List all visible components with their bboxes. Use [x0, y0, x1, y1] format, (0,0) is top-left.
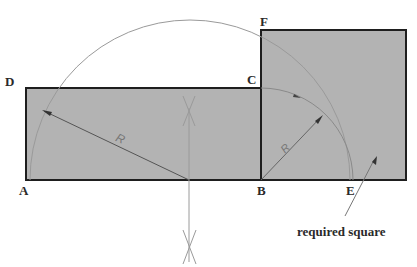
label-b: B: [257, 183, 266, 198]
label-e: E: [346, 183, 355, 198]
geometry-diagram: D A C B F E R R required square: [0, 0, 417, 267]
annotation-required-square: required square: [297, 224, 386, 239]
label-a: A: [19, 183, 29, 198]
rectangle-abcd: [26, 88, 261, 180]
label-f: F: [260, 14, 268, 29]
label-c: C: [247, 72, 256, 87]
label-d: D: [5, 74, 14, 89]
